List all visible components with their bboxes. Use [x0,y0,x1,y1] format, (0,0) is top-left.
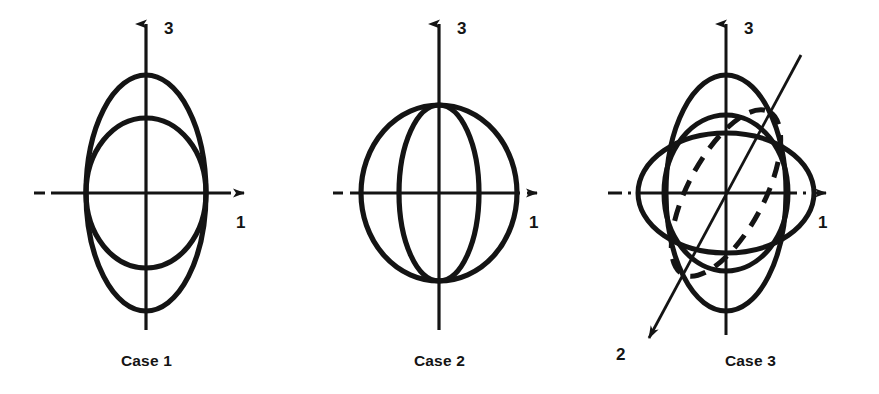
axis-3-label: 3 [457,19,466,38]
three-case-ellipsoid-diagram: 3 1 Case 1 3 [0,0,879,394]
case-1-drawing: 3 1 [0,0,293,394]
panel-case-1: 3 1 Case 1 [0,0,293,394]
panel-case-3: 3 1 2 Case 3 [586,0,879,394]
case-2-caption: Case 2 [293,352,586,370]
axis-1-label: 1 [818,213,827,232]
case-3-drawing: 3 1 2 [586,0,879,394]
panel-case-2: 3 1 Case 2 [293,0,586,394]
case-2-drawing: 3 1 [293,0,586,394]
case-3-caption: Case 3 [604,352,879,370]
axis-1-label: 1 [529,213,538,232]
axis-1-label: 1 [236,213,245,232]
axis-3-label: 3 [744,19,753,38]
axis-3-label: 3 [164,19,173,38]
case-1-caption: Case 1 [0,352,293,370]
